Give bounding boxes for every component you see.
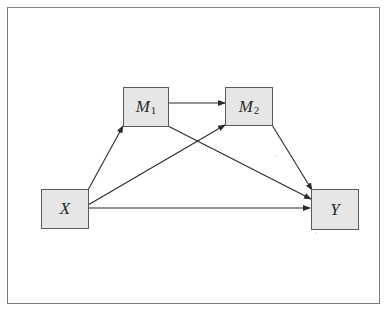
node-y-label: Y (330, 200, 339, 220)
edge-x-m1 (88, 126, 123, 190)
node-m2-label: M (239, 97, 253, 117)
node-m1: M1 (123, 87, 169, 127)
node-m2: M2 (225, 87, 273, 126)
node-m1-label: M (136, 97, 150, 117)
edge-m1-y (168, 126, 311, 199)
edges-layer (0, 0, 389, 311)
edge-x-m2 (88, 125, 225, 205)
scan-speck (275, 155, 276, 156)
node-m1-subscript: 1 (151, 104, 157, 116)
node-m2-subscript: 2 (254, 104, 260, 116)
node-y: Y (311, 189, 359, 230)
scan-speck (315, 232, 316, 233)
edge-m2-y (272, 125, 312, 190)
node-x: X (41, 189, 89, 229)
node-x-label: X (60, 199, 70, 219)
